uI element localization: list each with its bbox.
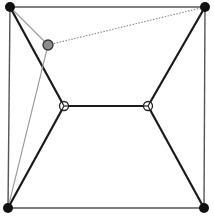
edge-br-c2: [148, 106, 204, 208]
edge-bl-tl: [8, 7, 10, 208]
node-bl: [3, 203, 13, 213]
edge-g-bl: [8, 45, 48, 208]
edge-tl-g: [10, 7, 48, 45]
edge-g-tr: [48, 7, 205, 45]
node-c2: [144, 102, 153, 111]
node-tl: [5, 2, 15, 12]
graph-svg: [0, 0, 214, 219]
nodes-layer: [3, 2, 210, 213]
node-br: [199, 203, 209, 213]
edge-bl-c1: [8, 106, 64, 208]
node-g: [43, 40, 53, 50]
edge-tr-c2: [148, 7, 205, 106]
edges-layer: [8, 7, 205, 208]
node-c1: [60, 102, 69, 111]
graph-diagram: [0, 0, 214, 219]
node-tr: [200, 2, 210, 12]
edge-tr-br: [204, 7, 205, 208]
